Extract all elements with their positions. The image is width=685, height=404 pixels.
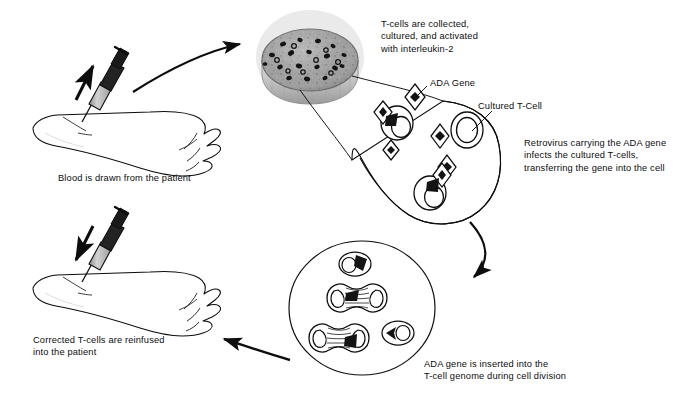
curved-arrow-icon	[224, 339, 290, 360]
diamond-virus-icon	[405, 84, 425, 110]
curved-arrow-icon	[133, 44, 240, 92]
cell-division-field	[289, 241, 435, 375]
petri-dish-icon	[256, 10, 364, 104]
label-cultured-tcell: Cultured T-Cell	[478, 100, 542, 112]
tcell-icon	[374, 101, 413, 140]
draw-direction-arrow-icon	[76, 66, 93, 100]
label-ada-gene: ADA Gene	[430, 77, 475, 89]
syringe-icon	[76, 207, 129, 282]
caption-reinfusion-step: Corrected T-cells are reinfused into the…	[33, 334, 165, 359]
blood-draw-illustration	[33, 47, 221, 176]
caption-infection-step: Retrovirus carrying the ADA gene infects…	[524, 137, 666, 174]
caption-blood-draw-step: Blood is drawn from the patient	[58, 172, 191, 184]
syringe-icon	[76, 47, 129, 122]
tcell-icon	[382, 321, 414, 345]
inject-direction-arrow-icon	[76, 226, 93, 260]
forearm-icon	[33, 111, 221, 176]
diagram-canvas: T-cells are collected, cultured, and act…	[0, 0, 685, 404]
tcell-icon	[339, 252, 371, 276]
forearm-icon	[33, 271, 221, 336]
caption-integration-step: ADA gene is inserted into the T-cell gen…	[424, 358, 566, 383]
reinfusion-illustration	[33, 207, 221, 336]
curved-arrow-icon	[470, 222, 485, 277]
caption-culture-step: T-cells are collected, cultured, and act…	[381, 18, 478, 55]
tcell-icon	[451, 112, 483, 148]
